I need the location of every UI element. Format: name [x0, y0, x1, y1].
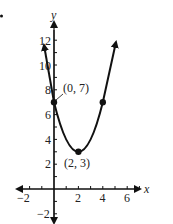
- point-4-7: [100, 99, 106, 105]
- point-label-2-3: (2, 3): [64, 156, 90, 170]
- x-axis-label: x: [143, 182, 150, 196]
- x-axis: x −2 2 4 6: [17, 182, 150, 205]
- y-tick-label: 4: [45, 133, 51, 147]
- y-tick-label: −2: [37, 207, 50, 221]
- x-tick-label: 6: [124, 191, 130, 205]
- stray-dot: [0, 15, 3, 18]
- y-tick-label: 6: [45, 108, 51, 122]
- y-axis: y −2 2 4 6 8 10 12: [37, 8, 57, 223]
- label-leader: [56, 94, 63, 100]
- x-tick-label: 4: [100, 191, 106, 205]
- parabola-right-arm: [103, 42, 116, 102]
- parabola-chart: x −2 2 4 6 y −2 2 4 6 8 10: [0, 0, 173, 224]
- point-label-0-7: (0, 7): [63, 81, 89, 95]
- x-tick-label: −2: [17, 191, 30, 205]
- y-axis-label: y: [50, 8, 57, 22]
- vertex-point-2-3: [75, 149, 81, 155]
- parabola-curve: [54, 102, 103, 152]
- y-tick-label: 2: [45, 157, 51, 171]
- x-tick-label: 2: [75, 191, 81, 205]
